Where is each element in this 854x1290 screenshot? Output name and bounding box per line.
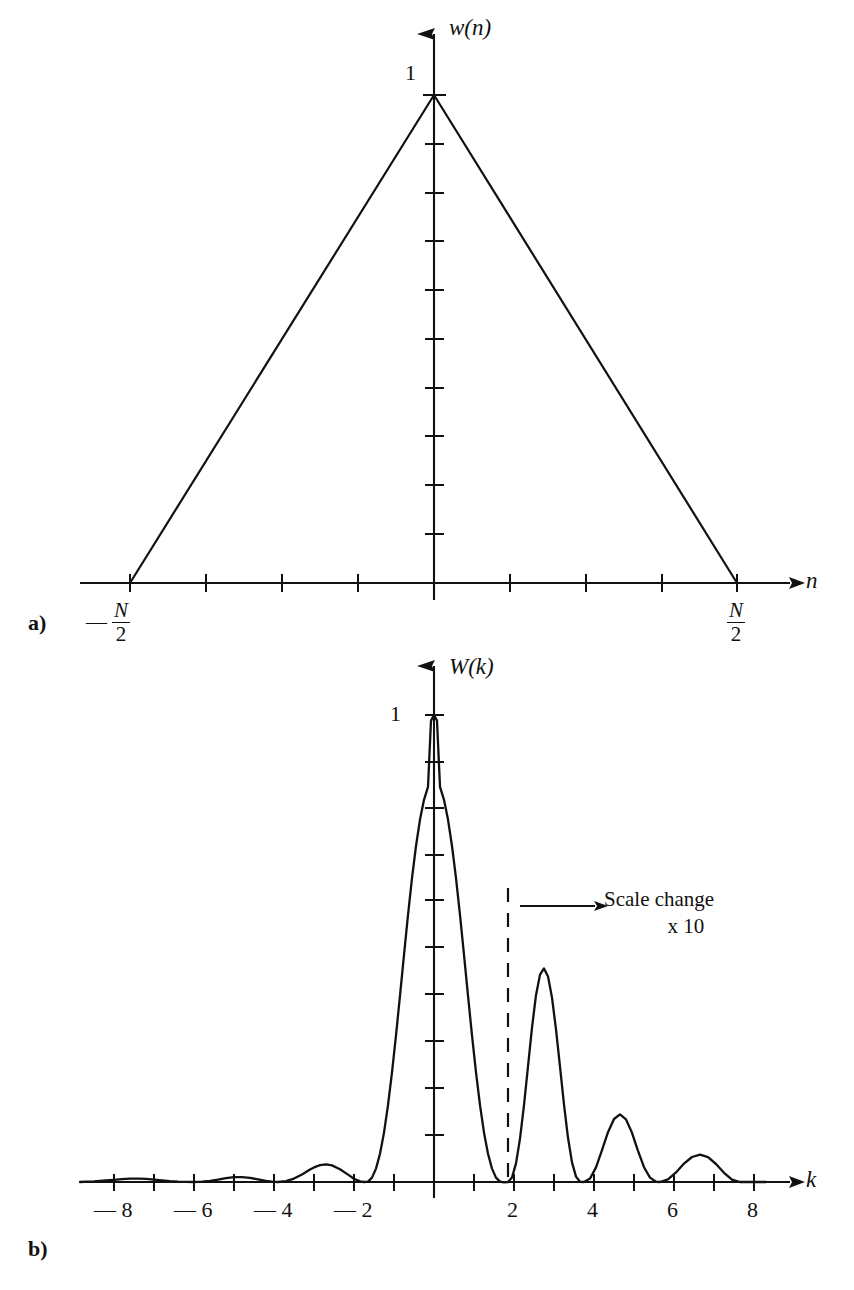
panel-b-x-axis-label: k (806, 1168, 816, 1191)
panel-b-xtick-label: 8 (747, 1199, 758, 1221)
scale-change-line2: x 10 (604, 913, 714, 940)
panel-label-a: a) (28, 612, 46, 634)
panel-b-xtick-label: — 2 (334, 1199, 373, 1221)
panel-b-y-ticks (425, 715, 444, 1135)
panel-a-xtick-left: —N2 (86, 600, 130, 645)
panel-b-xtick-label: — 4 (254, 1199, 293, 1221)
window-transform-curve (80, 715, 766, 1182)
panel-a-xtick-right: N2 (727, 600, 745, 645)
panel-a-peak-label: 1 (405, 62, 416, 84)
panel-b-xtick-label: — 6 (174, 1199, 213, 1221)
fraction-n-over-2: N2 (112, 600, 130, 645)
scale-change-line1: Scale change (604, 887, 714, 911)
figure-page: w(n) 1 n —N2 N2 a) (0, 0, 854, 1290)
fraction-n-over-2: N2 (727, 600, 745, 645)
panel-a-x-axis-label: n (806, 569, 818, 592)
panel-b-xtick-label: — 8 (94, 1199, 133, 1221)
panel-b-xtick-label: 4 (587, 1199, 598, 1221)
panel-b-y-axis-label: W(k) (449, 655, 494, 678)
panel-a-plot (0, 0, 854, 660)
panel-b-x-ticks (114, 1174, 754, 1191)
scale-change-annotation: Scale change x 10 (604, 886, 714, 940)
panel-b-xtick-label: 6 (667, 1199, 678, 1221)
panel-label-b: b) (28, 1238, 48, 1260)
panel-a-y-axis-label: w(n) (449, 16, 491, 39)
panel-b-xtick-label: 2 (507, 1199, 518, 1221)
panel-b-peak-label: 1 (390, 703, 401, 725)
minus-sign: — (86, 612, 107, 633)
